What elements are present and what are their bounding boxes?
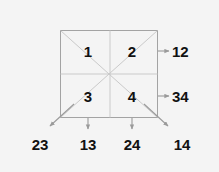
arrow-down-left-diagonal: [50, 104, 74, 126]
right-label-12: 12: [172, 44, 189, 59]
cell-label-1: 1: [75, 44, 101, 59]
cell-label-3: 3: [75, 89, 101, 104]
cell-label-2: 2: [119, 44, 145, 59]
pair-combination-diagram: 1 2 3 4 12 34 23 13 24 14: [0, 0, 219, 172]
bottom-label-14: 14: [162, 137, 202, 152]
bottom-label-23: 23: [20, 137, 60, 152]
right-label-34: 34: [172, 89, 189, 104]
cell-label-4: 4: [119, 89, 145, 104]
bottom-label-24: 24: [112, 137, 152, 152]
arrow-down-right-diagonal: [144, 104, 168, 126]
bottom-label-13: 13: [68, 137, 108, 152]
